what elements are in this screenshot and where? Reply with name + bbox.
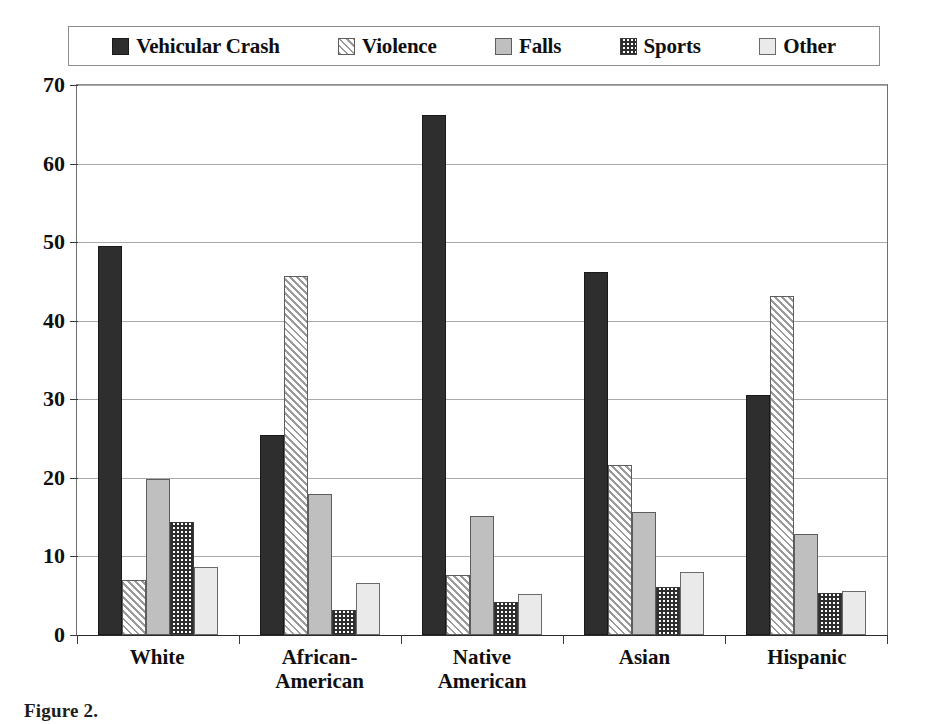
x-tick-mark-1 <box>239 635 240 644</box>
bar-falls <box>308 494 332 635</box>
bar-vehicular-crash <box>260 435 284 635</box>
bar-sports <box>170 522 194 635</box>
bar-falls <box>632 512 656 635</box>
bar-other <box>194 567 218 635</box>
x-tick-mark-2 <box>401 635 402 644</box>
y-tick-label-10: 10 <box>7 545 65 567</box>
x-axis-label-african-american: African-American <box>238 646 400 693</box>
legend-swatch-vehicular-crash <box>112 38 129 55</box>
x-axis-labels: WhiteAfrican-AmericanNativeAmericanAsian… <box>76 646 888 693</box>
bar-violence <box>122 580 146 635</box>
bar-group-native-american <box>401 85 563 635</box>
bar-groups <box>77 85 887 635</box>
legend-swatch-sports <box>620 38 637 55</box>
y-tick-label-30: 30 <box>7 388 65 410</box>
x-tick-mark-4 <box>725 635 726 644</box>
plot-area: 706050403020100 <box>76 84 888 636</box>
bar-violence <box>608 465 632 636</box>
legend-label-falls: Falls <box>519 36 561 57</box>
bar-group-white <box>77 85 239 635</box>
x-tick-mark-0 <box>77 635 78 644</box>
figure-caption: Figure 2. <box>24 700 98 722</box>
legend-label-vehicular-crash: Vehicular Crash <box>136 36 279 57</box>
x-tick-mark-3 <box>563 635 564 644</box>
bar-other <box>680 572 704 635</box>
y-tick-label-40: 40 <box>7 310 65 332</box>
bar-vehicular-crash <box>746 395 770 635</box>
legend-item-violence: Violence <box>338 36 437 57</box>
bar-other <box>356 583 380 635</box>
bar-sports <box>818 593 842 635</box>
bar-violence <box>770 296 794 635</box>
y-tick-label-60: 60 <box>7 153 65 175</box>
bar-sports <box>494 602 518 635</box>
bar-falls <box>470 516 494 635</box>
legend-item-other: Other <box>759 36 836 57</box>
x-axis-label-native-american: NativeAmerican <box>401 646 563 693</box>
legend-label-sports: Sports <box>644 36 701 57</box>
chart-legend: Vehicular Crash Violence Falls Sports Ot… <box>68 26 880 66</box>
legend-swatch-other <box>759 38 776 55</box>
bar-violence <box>446 575 470 635</box>
bar-falls <box>146 479 170 635</box>
bar-vehicular-crash <box>422 115 446 635</box>
x-axis-label-white: White <box>76 646 238 693</box>
legend-item-sports: Sports <box>620 36 701 57</box>
y-tick-label-50: 50 <box>7 231 65 253</box>
bar-vehicular-crash <box>584 272 608 635</box>
bar-sports <box>332 610 356 635</box>
legend-item-vehicular-crash: Vehicular Crash <box>112 36 279 57</box>
x-axis-label-hispanic: Hispanic <box>726 646 888 693</box>
bar-group-asian <box>563 85 725 635</box>
y-tick-label-70: 70 <box>7 74 65 96</box>
legend-label-violence: Violence <box>362 36 437 57</box>
x-axis-label-asian: Asian <box>563 646 725 693</box>
bar-vehicular-crash <box>98 246 122 635</box>
bar-other <box>842 591 866 635</box>
figure-container: Vehicular Crash Violence Falls Sports Ot… <box>0 0 932 724</box>
bar-falls <box>794 534 818 635</box>
y-tick-label-20: 20 <box>7 467 65 489</box>
legend-swatch-violence <box>338 38 355 55</box>
bar-group-hispanic <box>725 85 887 635</box>
bar-other <box>518 594 542 635</box>
legend-label-other: Other <box>783 36 836 57</box>
x-tick-mark-5 <box>887 635 888 644</box>
bar-sports <box>656 587 680 635</box>
legend-item-falls: Falls <box>495 36 561 57</box>
legend-swatch-falls <box>495 38 512 55</box>
y-tick-label-0: 0 <box>7 624 65 646</box>
bar-group-african-american <box>239 85 401 635</box>
bar-violence <box>284 276 308 635</box>
